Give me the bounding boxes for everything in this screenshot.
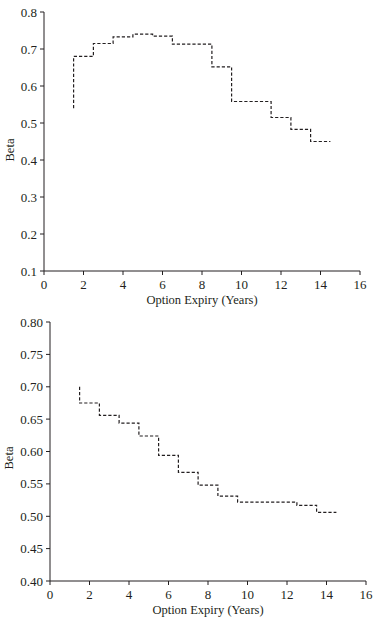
y-tick-label: 0.45 — [20, 541, 43, 556]
x-tick-label: 8 — [199, 277, 206, 292]
bottom-x-tick-labels: 0 2 4 6 8 10 12 14 16 — [47, 587, 373, 602]
x-tick-label: 8 — [205, 587, 212, 602]
x-tick-label: 6 — [159, 277, 166, 292]
x-tick-label: 4 — [120, 277, 127, 292]
top-x-tick-labels: 0 2 4 6 8 10 12 14 16 — [41, 277, 367, 292]
x-tick-label: 2 — [86, 587, 93, 602]
bottom-beta-series — [80, 387, 337, 513]
bottom-x-axis-title: Option Expiry (Years) — [152, 603, 263, 617]
y-tick-label: 0.7 — [21, 42, 38, 57]
x-tick-label: 0 — [41, 277, 48, 292]
charts-canvas: 0.8 0.7 0.6 0.5 0.4 0.3 0.2 0.1 0 2 4 6 — [0, 0, 384, 623]
x-tick-label: 2 — [80, 277, 87, 292]
x-tick-label: 16 — [360, 587, 374, 602]
top-y-axis-title: Beta — [3, 138, 17, 161]
x-tick-label: 6 — [165, 587, 172, 602]
x-tick-label: 14 — [314, 277, 328, 292]
y-tick-label: 0.75 — [20, 347, 43, 362]
top-x-axis-title: Option Expiry (Years) — [146, 293, 257, 307]
x-tick-label: 14 — [320, 587, 334, 602]
y-tick-label: 0.8 — [21, 5, 37, 20]
top-y-ticks — [40, 12, 44, 271]
y-tick-label: 0.70 — [20, 379, 43, 394]
x-tick-label: 12 — [275, 277, 288, 292]
y-tick-label: 0.80 — [20, 315, 43, 330]
y-tick-label: 0.1 — [21, 264, 37, 279]
x-tick-label: 16 — [354, 277, 368, 292]
bottom-x-ticks — [50, 581, 366, 585]
y-tick-label: 0.6 — [21, 79, 38, 94]
y-tick-label: 0.50 — [20, 509, 43, 524]
top-x-ticks — [44, 271, 360, 275]
y-tick-label: 0.5 — [21, 116, 37, 131]
top-beta-series — [74, 34, 331, 141]
x-tick-label: 4 — [126, 587, 133, 602]
x-tick-label: 0 — [47, 587, 54, 602]
x-tick-label: 10 — [241, 587, 254, 602]
y-tick-label: 0.65 — [20, 412, 43, 427]
x-tick-label: 10 — [235, 277, 248, 292]
bottom-y-ticks — [46, 322, 50, 581]
bottom-y-axis-title: Beta — [2, 446, 16, 469]
top-y-tick-labels: 0.8 0.7 0.6 0.5 0.4 0.3 0.2 0.1 — [21, 5, 38, 279]
y-tick-label: 0.55 — [20, 476, 43, 491]
y-tick-label: 0.3 — [21, 190, 37, 205]
bottom-chart: 0.80 0.75 0.70 0.65 0.60 0.55 0.50 0.45 … — [2, 315, 373, 618]
y-tick-label: 0.60 — [20, 444, 43, 459]
top-chart: 0.8 0.7 0.6 0.5 0.4 0.3 0.2 0.1 0 2 4 6 — [3, 5, 367, 308]
bottom-y-tick-labels: 0.80 0.75 0.70 0.65 0.60 0.55 0.50 0.45 … — [20, 315, 43, 589]
y-tick-label: 0.2 — [21, 227, 37, 242]
y-tick-label: 0.40 — [20, 574, 43, 589]
x-tick-label: 12 — [281, 587, 294, 602]
y-tick-label: 0.4 — [21, 153, 38, 168]
